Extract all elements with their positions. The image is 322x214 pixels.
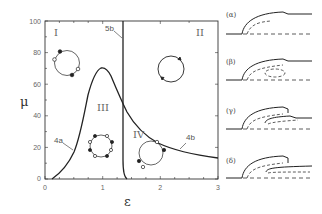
curve-4a-4b — [52, 68, 218, 179]
panel-alpha: (α) — [226, 11, 312, 34]
plot-frame — [45, 21, 218, 179]
region-label-II: II — [196, 27, 204, 38]
orbit-diagram-III — [88, 134, 113, 157]
x-tick-label: 1 — [101, 184, 105, 191]
y-tick-label: 40 — [33, 112, 41, 119]
label-pointer-4b — [180, 143, 186, 149]
curve-label-4a: 4a — [54, 136, 63, 145]
region-label-III: III — [97, 102, 109, 113]
orbit-diagram-II — [158, 56, 184, 82]
panel-beta: (β) — [226, 58, 312, 80]
panel-label-beta: (β) — [226, 58, 236, 66]
panel-label-alpha: (α) — [226, 11, 236, 19]
y-tick-label: 20 — [33, 144, 41, 151]
x-tick-label: 0 — [43, 184, 47, 191]
curve-label-5b: 5b — [105, 24, 114, 33]
x-ticks — [45, 21, 218, 179]
panel-delta: (δ) — [226, 156, 312, 178]
figure: 0 20 40 60 80 100 0 1 2 3 μ ε 5b 4a 4b I… — [0, 0, 322, 214]
y-ticks — [45, 21, 218, 179]
y-tick-label: 60 — [33, 81, 41, 88]
panel-gamma: (γ) — [226, 107, 312, 129]
curve-5b — [123, 21, 127, 179]
y-axis-label: μ — [20, 94, 28, 109]
region-label-I: I — [54, 27, 58, 38]
region-label-IV: IV — [133, 129, 145, 140]
panel-label-gamma: (γ) — [226, 107, 236, 115]
y-tick-label: 0 — [37, 175, 41, 182]
y-tick-label: 80 — [33, 49, 41, 56]
label-pointer-5b — [114, 31, 122, 38]
label-pointer-4a — [63, 143, 73, 150]
orbit-diagram-I — [53, 50, 80, 77]
curve-label-4b: 4b — [186, 133, 195, 142]
y-tick-label: 100 — [29, 18, 41, 25]
x-tick-label: 2 — [158, 184, 162, 191]
x-tick-label: 3 — [216, 184, 220, 191]
panel-label-delta: (δ) — [226, 157, 236, 165]
x-axis-label: ε — [124, 194, 131, 209]
